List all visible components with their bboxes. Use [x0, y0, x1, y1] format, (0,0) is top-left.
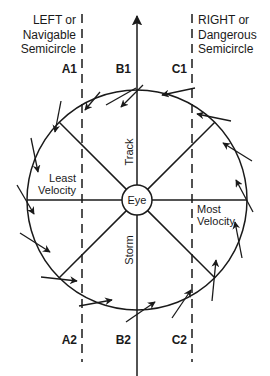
- svg-text:Navigable: Navigable: [23, 28, 77, 42]
- label-b2: B2: [116, 333, 132, 347]
- svg-text:Semicircle: Semicircle: [198, 42, 254, 56]
- eye-label: Eye: [128, 194, 147, 206]
- hurricane-diagram: Eye Track Storm: [0, 0, 270, 376]
- track-label: Track: [123, 138, 135, 166]
- label-a2: A2: [62, 333, 78, 347]
- left-heading: LEFT or Navigable Semicircle: [21, 13, 77, 56]
- svg-text:LEFT or: LEFT or: [33, 13, 76, 27]
- label-c1: C1: [172, 62, 188, 76]
- svg-text:Velocity: Velocity: [197, 215, 235, 227]
- svg-text:RIGHT or: RIGHT or: [198, 13, 249, 27]
- svg-text:Velocity: Velocity: [38, 184, 76, 196]
- right-heading: RIGHT or Dangerous Semicircle: [198, 13, 257, 56]
- most-velocity-label: Most Velocity: [197, 203, 235, 227]
- label-b1: B1: [116, 62, 132, 76]
- storm-label: Storm: [123, 235, 135, 264]
- label-c2: C2: [172, 333, 188, 347]
- svg-text:Most: Most: [197, 203, 221, 215]
- label-a1: A1: [62, 62, 78, 76]
- svg-text:Semicircle: Semicircle: [21, 42, 77, 56]
- svg-text:Dangerous: Dangerous: [198, 28, 257, 42]
- least-velocity-label: Least Velocity: [38, 172, 76, 196]
- svg-text:Least: Least: [49, 172, 76, 184]
